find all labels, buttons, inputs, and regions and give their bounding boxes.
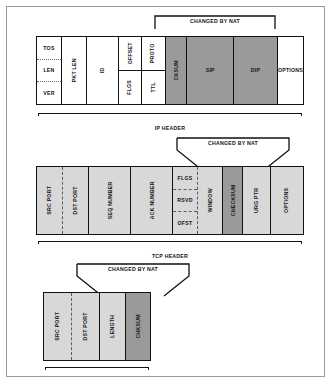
ip-field-cksum: CKSUM xyxy=(166,37,188,104)
tcp-field-options: OPTIONS xyxy=(271,167,303,234)
tcp-field-window: WINDOW xyxy=(198,167,223,234)
tcp-label-window: WINDOW xyxy=(207,188,214,212)
ip-field-pkt-len: PKT LEN xyxy=(62,37,87,104)
ip-label-flgs: FLGS xyxy=(126,80,133,95)
tcp-header-caption: TCP HEADER xyxy=(146,253,194,259)
ip-field-tos-len-ver: TOS LEN VER xyxy=(37,37,62,104)
diagram-frame: CHANGED BY NAT TOS LEN VER PKT LEN ID OF… xyxy=(6,6,325,377)
ip-label-tos: TOS xyxy=(43,45,54,52)
udp-header-caption-bracket: UDP HEADER xyxy=(45,367,149,377)
ip-label-id: ID xyxy=(99,68,106,74)
ip-field-offset-flgs: OFFSET FLGS xyxy=(119,37,142,104)
ip-field-dip: DIP xyxy=(234,37,278,104)
tcp-label-ack-number: ACK NUMBER xyxy=(148,182,155,220)
tcp-field-dst-port: DST PORT xyxy=(63,167,89,234)
udp-field-length: LENGTH xyxy=(100,293,126,360)
udp-field-chksum: CHKSUM xyxy=(126,293,150,360)
udp-label-dst-port: DST PORT xyxy=(82,312,89,340)
tcp-label-rsvd: RSVD xyxy=(177,197,192,204)
udp-label-src-port: SRC PORT xyxy=(54,312,61,341)
tcp-label-seq-number: SEQ NUMBER xyxy=(106,182,113,220)
ip-field-id: ID xyxy=(87,37,119,104)
udp-nat-callout-label: CHANGED BY NAT xyxy=(73,266,193,273)
ip-label-proto: PROTO xyxy=(150,44,157,64)
ip-header-box: TOS LEN VER PKT LEN ID OFFSET FLGS PROTO… xyxy=(36,36,304,105)
ip-header-caption: IP HEADER xyxy=(149,125,191,131)
tcp-label-options: OPTIONS xyxy=(284,188,291,213)
ip-label-ver: VER xyxy=(43,90,54,97)
ip-label-options: OPTIONS xyxy=(278,67,303,74)
udp-label-length: LENGTH xyxy=(109,315,116,338)
udp-label-chksum: CHKSUM xyxy=(135,314,142,338)
tcp-field-seq-number: SEQ NUMBER xyxy=(89,167,131,234)
ip-field-proto-ttl: PROTO TTL xyxy=(142,37,166,104)
udp-field-src-port: SRC PORT xyxy=(44,293,72,360)
tcp-label-dst-port: DST PORT xyxy=(72,186,79,214)
ip-header-caption-bracket: IP HEADER xyxy=(38,113,302,125)
tcp-label-flgs: FLGS xyxy=(178,175,193,182)
tcp-field-ack-number: ACK NUMBER xyxy=(131,167,173,234)
tcp-field-src-port: SRC PORT xyxy=(37,167,63,234)
ip-label-ttl: TTL xyxy=(150,82,157,92)
ip-label-sip: SIP xyxy=(206,67,215,74)
ip-nat-callout: CHANGED BY NAT xyxy=(154,15,276,30)
ip-label-cksum: CKSUM xyxy=(173,60,180,80)
ip-label-offset: OFFSET xyxy=(126,43,133,65)
ip-label-pkt-len: PKT LEN xyxy=(71,59,78,83)
ip-label-len: LEN xyxy=(43,67,54,74)
ip-field-options: OPTIONS xyxy=(278,37,303,104)
tcp-label-ofst: OFST xyxy=(178,220,193,227)
ip-nat-callout-label: CHANGED BY NAT xyxy=(154,18,276,25)
tcp-label-checksum: CHECKSUM xyxy=(229,185,236,217)
ip-label-dip: DIP xyxy=(251,67,260,74)
tcp-field-flgs-rsvd-ofst: FLGS RSVD OFST xyxy=(173,167,198,234)
tcp-label-urg-ptr: URG PTR xyxy=(253,188,260,213)
udp-field-dst-port: DST PORT xyxy=(72,293,100,360)
tcp-header-box: SRC PORT DST PORT SEQ NUMBER ACK NUMBER … xyxy=(36,166,304,235)
tcp-field-urg-ptr: URG PTR xyxy=(243,167,271,234)
udp-header-box: SRC PORT DST PORT LENGTH CHKSUM xyxy=(43,292,151,361)
tcp-field-checksum: CHECKSUM xyxy=(223,167,243,234)
tcp-nat-callout-label: CHANGED BY NAT xyxy=(173,140,293,147)
tcp-header-caption-bracket: TCP HEADER xyxy=(38,241,302,253)
tcp-label-src-port: SRC PORT xyxy=(46,186,53,215)
ip-field-sip: SIP xyxy=(187,37,234,104)
